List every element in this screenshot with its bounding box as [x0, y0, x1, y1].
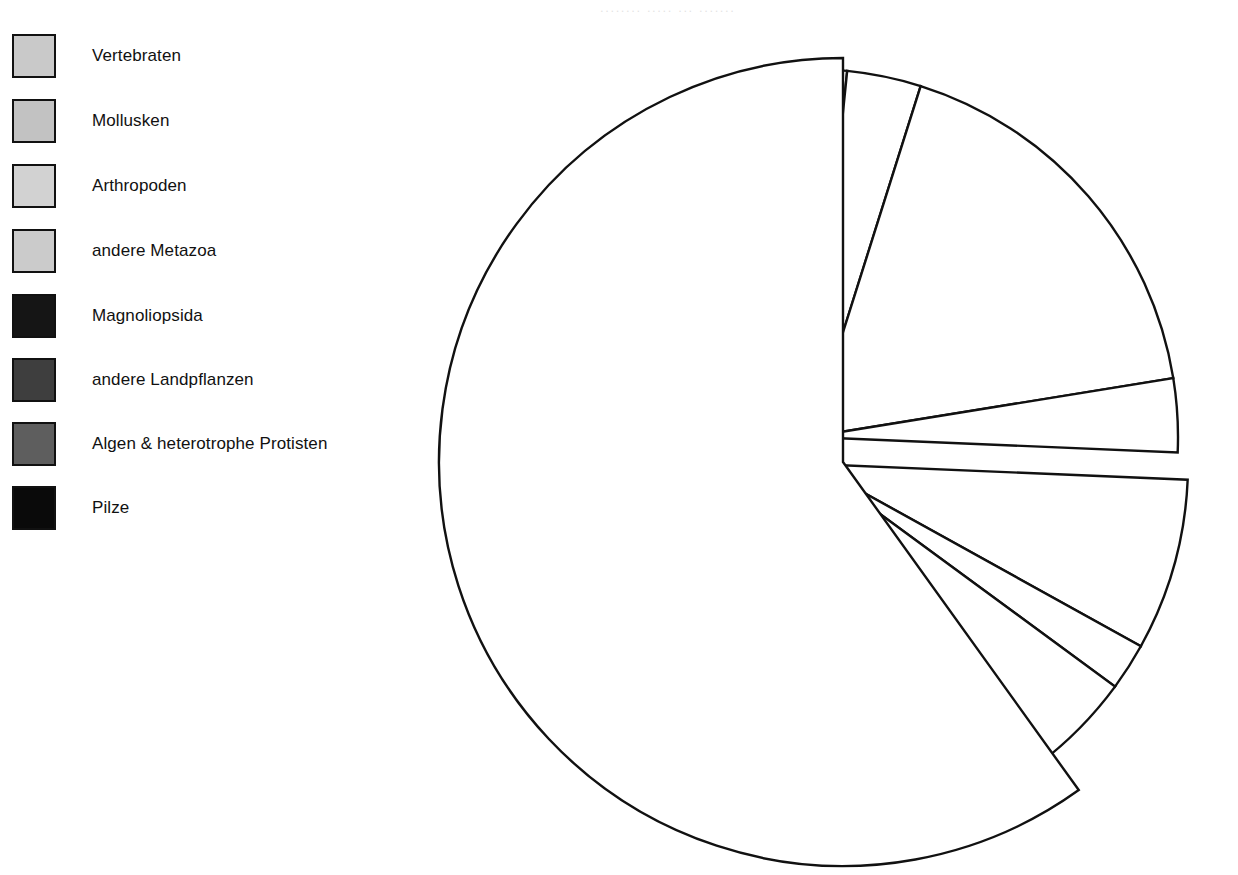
legend-item-label: Magnoliopsida: [92, 306, 203, 326]
legend-item[interactable]: Algen & heterotrophe Protisten: [12, 421, 327, 467]
legend-item[interactable]: Mollusken: [12, 98, 169, 144]
legend-item[interactable]: Arthropoden: [12, 163, 187, 209]
legend-swatch-icon: [12, 99, 56, 143]
legend-item-label: andere Metazoa: [92, 241, 216, 261]
legend-item-label: Algen & heterotrophe Protisten: [92, 434, 327, 454]
legend-swatch-icon: [12, 358, 56, 402]
legend-item[interactable]: andere Metazoa: [12, 228, 216, 274]
legend-swatch-icon: [12, 164, 56, 208]
legend-item-label: andere Landpflanzen: [92, 370, 254, 390]
legend-item[interactable]: Vertebraten: [12, 33, 181, 79]
legend-swatch-icon: [12, 422, 56, 466]
pie-chart-figure: ........ ..... ... ....... VertebratenMo…: [0, 0, 1238, 875]
legend-swatch-icon: [12, 294, 56, 338]
chart-legend: VertebratenMolluskenArthropodenandere Me…: [0, 0, 400, 875]
legend-item-label: Pilze: [92, 498, 129, 518]
legend-item[interactable]: andere Landpflanzen: [12, 357, 254, 403]
legend-item-label: Vertebraten: [92, 46, 181, 66]
legend-item[interactable]: Pilze: [12, 485, 129, 531]
legend-swatch-icon: [12, 34, 56, 78]
legend-item-label: Arthropoden: [92, 176, 187, 196]
legend-item[interactable]: Magnoliopsida: [12, 293, 203, 339]
legend-swatch-icon: [12, 229, 56, 273]
legend-item-label: Mollusken: [92, 111, 169, 131]
pie-slices-group: [439, 58, 1188, 866]
legend-swatch-icon: [12, 486, 56, 530]
